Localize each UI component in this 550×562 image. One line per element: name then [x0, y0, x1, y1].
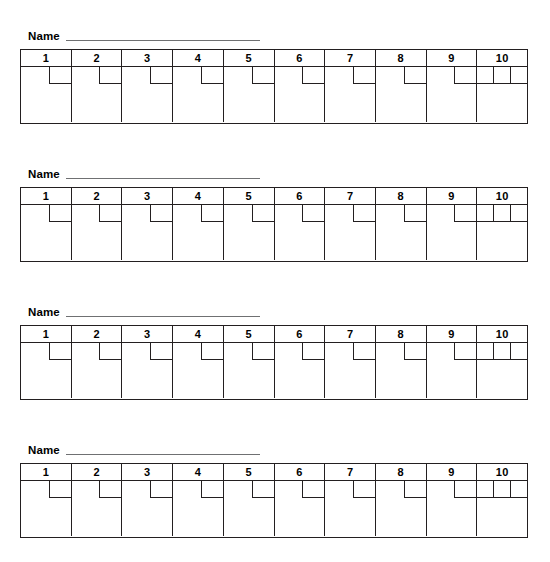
digit-box[interactable] — [454, 67, 476, 84]
answer-cell[interactable] — [275, 343, 326, 398]
answer-cell[interactable] — [275, 205, 326, 260]
answer-cell[interactable] — [427, 67, 478, 122]
answer-cell[interactable] — [427, 343, 478, 398]
answer-cell[interactable] — [275, 481, 326, 536]
digit-box[interactable] — [353, 205, 375, 222]
answer-cell[interactable] — [477, 343, 527, 398]
digit-box[interactable] — [201, 67, 223, 84]
name-write-in-line[interactable] — [66, 454, 260, 455]
answer-cell[interactable] — [275, 67, 326, 122]
answer-cell[interactable] — [72, 205, 123, 260]
digit-box[interactable] — [302, 343, 324, 360]
digit-box[interactable] — [49, 343, 71, 360]
digit-box[interactable] — [454, 343, 476, 360]
answer-cell[interactable] — [376, 205, 427, 260]
digit-box[interactable] — [201, 481, 223, 498]
digit-box[interactable] — [404, 481, 426, 498]
answer-cell[interactable] — [224, 205, 275, 260]
digit-box[interactable] — [302, 67, 324, 84]
digit-box[interactable] — [353, 481, 375, 498]
digit-box[interactable] — [494, 481, 511, 497]
answer-cell[interactable] — [173, 67, 224, 122]
answer-cell[interactable] — [325, 343, 376, 398]
answer-cell[interactable] — [325, 481, 376, 536]
digit-box[interactable] — [302, 481, 324, 498]
name-write-in-line[interactable] — [66, 316, 260, 317]
digit-box[interactable] — [477, 343, 494, 359]
answer-cell[interactable] — [173, 481, 224, 536]
digit-box[interactable] — [511, 481, 527, 497]
answer-cell[interactable] — [72, 481, 123, 536]
digit-box[interactable] — [252, 343, 274, 360]
digit-box[interactable] — [454, 205, 476, 222]
answer-cell[interactable] — [173, 205, 224, 260]
digit-box[interactable] — [477, 67, 494, 83]
answer-cell[interactable] — [21, 481, 72, 536]
digit-box[interactable] — [252, 205, 274, 222]
digit-box[interactable] — [353, 343, 375, 360]
name-write-in-line[interactable] — [66, 40, 260, 41]
digit-box[interactable] — [511, 343, 527, 359]
answer-cell[interactable] — [477, 205, 527, 260]
answer-cell[interactable] — [224, 343, 275, 398]
answer-cell[interactable] — [122, 481, 173, 536]
answer-cell[interactable] — [122, 67, 173, 122]
answer-cell[interactable] — [173, 343, 224, 398]
digit-box[interactable] — [494, 205, 511, 221]
digit-box[interactable] — [511, 67, 527, 83]
digit-box[interactable] — [201, 205, 223, 222]
grid-header-row: 12345678910 — [21, 50, 527, 67]
digit-box[interactable] — [353, 67, 375, 84]
digit-box[interactable] — [252, 67, 274, 84]
digit-box[interactable] — [494, 343, 511, 359]
digit-box[interactable] — [99, 205, 121, 222]
digit-box[interactable] — [201, 343, 223, 360]
digit-box[interactable] — [150, 205, 172, 222]
name-write-in-line[interactable] — [66, 178, 260, 179]
answer-cell[interactable] — [224, 67, 275, 122]
digit-box[interactable] — [252, 481, 274, 498]
digit-box[interactable] — [99, 343, 121, 360]
answer-cell[interactable] — [325, 205, 376, 260]
digit-box[interactable] — [49, 67, 71, 84]
column-header: 4 — [173, 188, 224, 204]
answer-cell[interactable] — [122, 343, 173, 398]
answer-cell[interactable] — [376, 481, 427, 536]
digit-box[interactable] — [404, 67, 426, 84]
answer-cell[interactable] — [21, 205, 72, 260]
answer-cell[interactable] — [325, 67, 376, 122]
digit-box[interactable] — [150, 343, 172, 360]
answer-cell[interactable] — [122, 205, 173, 260]
digit-box[interactable] — [494, 67, 511, 83]
digit-box[interactable] — [477, 205, 494, 221]
digit-box[interactable] — [99, 481, 121, 498]
digit-box[interactable] — [404, 343, 426, 360]
answer-cell[interactable] — [477, 481, 527, 536]
answer-cell[interactable] — [376, 67, 427, 122]
answer-cell[interactable] — [72, 343, 123, 398]
digit-box[interactable] — [302, 205, 324, 222]
worksheet-block: Name12345678910 — [20, 440, 528, 538]
triple-box-group — [477, 343, 527, 360]
digit-box[interactable] — [49, 205, 71, 222]
answer-cell[interactable] — [72, 67, 123, 122]
answer-cell[interactable] — [376, 343, 427, 398]
answer-cell[interactable] — [21, 343, 72, 398]
digit-box[interactable] — [511, 205, 527, 221]
column-header: 8 — [376, 326, 427, 342]
answer-cell[interactable] — [427, 205, 478, 260]
digit-box[interactable] — [150, 67, 172, 84]
digit-box[interactable] — [49, 481, 71, 498]
column-header: 3 — [122, 464, 173, 480]
answer-cell[interactable] — [224, 481, 275, 536]
digit-box[interactable] — [477, 481, 494, 497]
answer-cell[interactable] — [477, 67, 527, 122]
digit-box[interactable] — [150, 481, 172, 498]
digit-box[interactable] — [99, 67, 121, 84]
column-header: 10 — [477, 188, 527, 204]
digit-box[interactable] — [404, 205, 426, 222]
answer-cell[interactable] — [21, 67, 72, 122]
name-label: Name — [28, 168, 60, 182]
answer-cell[interactable] — [427, 481, 478, 536]
digit-box[interactable] — [454, 481, 476, 498]
